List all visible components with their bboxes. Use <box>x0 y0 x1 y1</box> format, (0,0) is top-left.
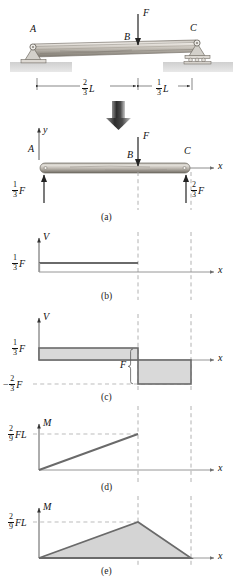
dimension-one-third-L: 13L <box>156 79 169 97</box>
moment-ramp-d <box>39 434 138 470</box>
label-axis-M-d: M <box>43 418 51 428</box>
mome-unit: FL <box>14 517 27 528</box>
panel-label-c: (c) <box>101 392 112 402</box>
panel-c-shear-diagram <box>33 318 214 384</box>
moment-value-label-d: 29FL <box>8 425 27 443</box>
ground-left <box>10 62 72 72</box>
label-jump-F: F <box>120 360 126 370</box>
label-axis-x-d: x <box>218 463 222 473</box>
label-point-A-a: A <box>28 144 34 154</box>
moment-triangle-e <box>39 522 191 558</box>
reactC-unit: F <box>197 185 204 196</box>
panel-e-moment-diagram <box>33 508 214 558</box>
panel-label-e: (e) <box>101 566 112 576</box>
shear-positive-value-label: 13F <box>12 339 25 357</box>
label-axis-M-e: M <box>43 502 51 512</box>
label-point-C-a: C <box>184 146 191 156</box>
beam-body <box>34 40 196 57</box>
panel-label-d: (d) <box>101 482 112 492</box>
panel-label-a: (a) <box>101 212 112 222</box>
shearc-pos-unit: F <box>18 343 25 354</box>
momd-unit: FL <box>14 429 27 440</box>
label-point-B-pictorial: B <box>124 32 130 42</box>
reaction-label-C: 23F <box>191 181 204 199</box>
panel-d-moment-diagram <box>33 424 214 470</box>
beam-shear-moment-figure <box>0 0 238 579</box>
reaction-label-A: 13F <box>12 181 25 199</box>
shearb-unit: F <box>18 258 25 269</box>
dimension-two-thirds-L: 23L <box>82 79 95 97</box>
moment-value-label-e: 29FL <box>8 513 27 531</box>
shear-value-label-b: 13F <box>12 254 25 272</box>
dim2-unit: L <box>162 83 169 94</box>
panel-label-b: (b) <box>101 291 112 301</box>
beam-end-dot-right <box>183 167 186 170</box>
label-axis-y-a: y <box>43 125 47 135</box>
beam-bar-a <box>40 163 190 173</box>
label-point-C-pictorial: C <box>190 23 197 33</box>
shear-negative-block <box>138 360 191 384</box>
label-axis-x-c: x <box>218 353 222 363</box>
pictorial-beam-group <box>10 14 233 90</box>
label-axis-x-a: x <box>218 161 222 171</box>
label-point-A-pictorial: A <box>30 24 36 34</box>
reactA-unit: F <box>18 185 25 196</box>
dim1-unit: L <box>88 83 95 94</box>
panel-a-free-body <box>39 128 214 203</box>
label-load-F-pictorial: F <box>143 8 149 18</box>
label-axis-x-b: x <box>218 265 222 275</box>
label-point-B-a: B <box>127 150 133 160</box>
label-axis-V-c: V <box>43 312 49 322</box>
panel-b-shear-diagram <box>39 238 214 272</box>
shearc-neg-unit: F <box>15 379 22 390</box>
label-axis-V-b: V <box>43 232 49 242</box>
label-load-F-a: F <box>143 131 149 141</box>
label-axis-x-e: x <box>218 551 222 561</box>
beam-end-dot-left <box>44 167 47 170</box>
transition-arrow <box>106 101 131 130</box>
shear-negative-value-label: −23F <box>3 375 22 393</box>
